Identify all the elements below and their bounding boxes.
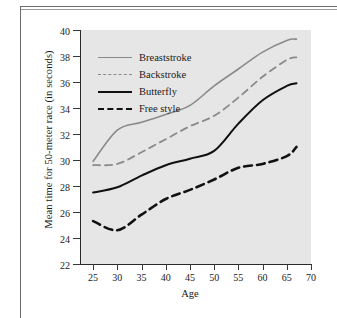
x-tick: [93, 264, 94, 270]
x-axis-label: Age: [75, 288, 305, 299]
y-tick-label: 36: [60, 78, 70, 89]
y-tick-label: 28: [60, 182, 70, 193]
legend-item-breaststroke: Breaststroke: [98, 49, 192, 66]
y-tick: 32: [73, 134, 80, 135]
x-tick: [214, 264, 215, 270]
y-tick-label: 34: [60, 104, 70, 115]
page-rule-top-secondary: [20, 9, 337, 10]
x-tick: [311, 264, 312, 270]
x-tick-label: 45: [185, 272, 195, 283]
y-tick: 26: [73, 212, 80, 213]
legend-label-breaststroke: Breaststroke: [139, 52, 192, 63]
chart-legend: Breaststroke Backstroke Butterfly Free s…: [98, 49, 192, 117]
x-tick-label: 55: [233, 272, 243, 283]
y-tick-label: 26: [60, 208, 70, 219]
legend-item-butterfly: Butterfly: [98, 83, 192, 100]
legend-item-backstroke: Backstroke: [98, 66, 192, 83]
y-tick: 40: [73, 30, 80, 31]
y-tick: 34: [73, 108, 80, 109]
legend-line-butterfly: [98, 91, 132, 93]
legend-label-butterfly: Butterfly: [139, 86, 177, 97]
x-tick-label: 40: [161, 272, 171, 283]
legend-label-free-style: Free style: [139, 103, 180, 114]
legend-line-backstroke: [98, 74, 132, 75]
y-tick-label: 30: [60, 156, 70, 167]
legend-line-free-style: [98, 108, 132, 110]
x-tick-label: 65: [282, 272, 292, 283]
legend-item-free-style: Free style: [98, 100, 192, 117]
y-tick: 28: [73, 186, 80, 187]
chart-figure: 22242628303234363840 2530354045505560657…: [20, 16, 337, 308]
x-tick: [238, 264, 239, 270]
x-tick-label: 25: [88, 272, 98, 283]
y-tick-label: 22: [60, 260, 70, 271]
x-tick: [166, 264, 167, 270]
figure-page: 22242628303234363840 2530354045505560657…: [0, 0, 337, 318]
x-tick-label: 60: [258, 272, 268, 283]
x-tick: [190, 264, 191, 270]
x-tick-label: 70: [306, 272, 316, 283]
x-axis-line: [80, 264, 311, 265]
y-axis-line: [80, 30, 81, 265]
x-tick-label: 30: [112, 272, 122, 283]
y-tick-label: 32: [60, 130, 70, 141]
y-tick-label: 24: [60, 234, 70, 245]
x-tick: [263, 264, 264, 270]
x-tick-label: 50: [209, 272, 219, 283]
y-tick: 30: [73, 160, 80, 161]
x-tick: [142, 264, 143, 270]
y-tick: 36: [73, 82, 80, 83]
y-axis-label: Mean time for 50-meter race (in seconds): [43, 40, 54, 240]
y-tick-label: 40: [60, 26, 70, 37]
legend-label-backstroke: Backstroke: [139, 69, 186, 80]
y-tick: 22: [73, 264, 80, 265]
x-tick-label: 35: [137, 272, 147, 283]
x-tick: [287, 264, 288, 270]
y-tick: 24: [73, 238, 80, 239]
y-tick: 38: [73, 56, 80, 57]
page-rule-top: [20, 6, 337, 7]
x-tick: [117, 264, 118, 270]
legend-line-breaststroke: [98, 57, 132, 58]
y-tick-label: 38: [60, 52, 70, 63]
